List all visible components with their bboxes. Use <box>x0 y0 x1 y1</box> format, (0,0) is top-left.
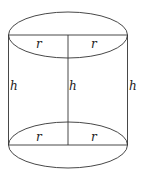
right-height-label: h <box>129 79 137 93</box>
top-right-radius-label: r <box>91 37 98 51</box>
bottom-right-radius-label: r <box>91 130 98 144</box>
center-height-label: h <box>69 79 77 93</box>
top-left-radius-label: r <box>36 37 43 51</box>
bottom-left-radius-label: r <box>36 130 43 144</box>
left-height-label: h <box>10 79 18 93</box>
cylinder-diagram: r r h h h r r <box>0 0 143 176</box>
